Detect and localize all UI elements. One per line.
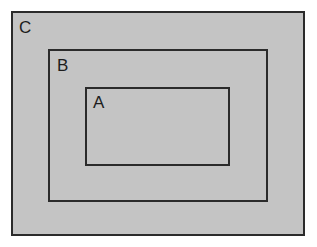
set-rectangle-inner-a[interactable]: [86, 88, 229, 165]
set-label-b: B: [57, 56, 68, 75]
set-label-c: C: [19, 18, 31, 37]
diagram-canvas: C B A: [0, 0, 317, 247]
nested-sets-diagram: C B A: [0, 0, 317, 247]
set-label-a: A: [93, 93, 105, 112]
